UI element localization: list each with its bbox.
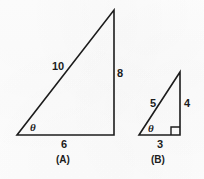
triangle-a-caption: (A) (56, 155, 70, 165)
right-angle-marker-icon (171, 127, 180, 135)
triangle-b-opposite-label: 4 (184, 98, 190, 109)
triangle-a-theta-label: θ (30, 122, 36, 133)
triangle-b-theta-label: θ (148, 123, 154, 134)
triangle-b-caption: (B) (151, 155, 165, 165)
triangles-diagram (0, 0, 204, 179)
triangle-b-adjacent-label: 3 (157, 139, 163, 150)
triangle-a (17, 10, 114, 135)
triangle-a-adjacent-label: 6 (61, 139, 67, 150)
triangle-a-hypotenuse-label: 10 (52, 61, 64, 72)
triangle-b-hypotenuse-label: 5 (150, 98, 156, 109)
triangle-a-outline (17, 10, 114, 135)
triangle-b-outline (139, 72, 180, 135)
triangle-b (139, 72, 180, 135)
figure-container: 10 8 6 θ (A) 5 4 3 θ (B) (0, 0, 204, 179)
triangle-a-opposite-label: 8 (117, 68, 123, 79)
